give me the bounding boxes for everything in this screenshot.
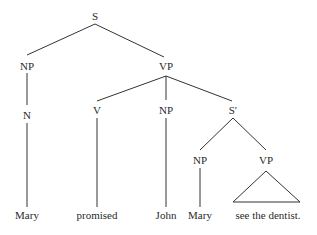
node-embedded-np: NP — [193, 154, 207, 166]
edge-sbar-np — [200, 118, 233, 150]
edge-vp-v — [97, 76, 166, 101]
node-s: S — [92, 10, 98, 22]
syntax-tree: S NP VP N V NP S′ NP VP Mary promised Jo… — [0, 0, 317, 235]
edge-vp-sbar — [166, 76, 232, 101]
leaf-object: John — [156, 209, 177, 221]
edge-s-vp — [95, 24, 164, 57]
triangle-vp-abbreviation — [233, 171, 300, 202]
tree-nodes: S NP VP N V NP S′ NP VP — [20, 10, 273, 166]
edge-sbar-vp — [233, 118, 266, 150]
leaf-subject: Mary — [15, 209, 39, 221]
node-subject-np: NP — [20, 60, 34, 72]
node-object-np: NP — [159, 104, 173, 116]
edge-s-np — [27, 24, 95, 55]
node-embedded-vp: VP — [259, 154, 273, 166]
tree-leaves: Mary promised John Mary see the dentist. — [15, 209, 301, 221]
node-verb: V — [93, 104, 101, 116]
leaf-embedded-predicate: see the dentist. — [235, 209, 300, 221]
node-s-bar: S′ — [229, 104, 238, 116]
node-subject-n: N — [23, 109, 31, 121]
leaf-verb: promised — [77, 209, 118, 221]
node-vp: VP — [159, 60, 173, 72]
leaf-embedded-subject: Mary — [188, 209, 212, 221]
